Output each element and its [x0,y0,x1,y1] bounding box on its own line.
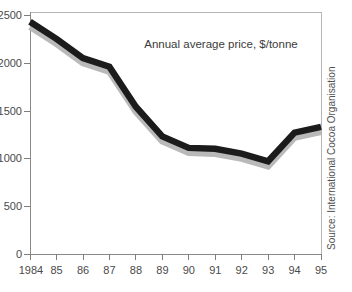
y-tick-label-2500: 2500 [0,9,22,21]
x-tick-label-89: 89 [156,264,168,276]
x-tick-label-88: 88 [130,264,142,276]
source-credit: Source: International Cocoa Organisation [326,67,337,250]
y-tick-label-2000: 2000 [0,57,22,69]
y-tick-label-500: 500 [4,200,22,212]
x-tick-label-92: 92 [236,264,248,276]
y-tick-label-0: 0 [16,248,22,260]
x-tick-label-86: 86 [77,264,89,276]
x-tick-label-94: 94 [288,264,300,276]
x-tick-label-85: 85 [50,264,62,276]
x-tick-label-87: 87 [103,264,115,276]
x-tick-label-1984: 1984 [19,264,43,276]
x-tick-label-91: 91 [209,264,221,276]
x-tick-label-95: 95 [315,264,327,276]
y-tick-label-1500: 1500 [0,105,22,117]
x-tick-label-93: 93 [262,264,274,276]
chart-annotation-label: Annual average price, $/tonne [144,38,297,50]
y-tick-label-1000: 1000 [0,152,22,164]
cocoa-price-line-chart: 2500 2000 1500 1000 500 0 1984 85 86 [0,0,352,292]
chart-container: 2500 2000 1500 1000 500 0 1984 85 86 [0,0,352,292]
x-tick-label-90: 90 [183,264,195,276]
